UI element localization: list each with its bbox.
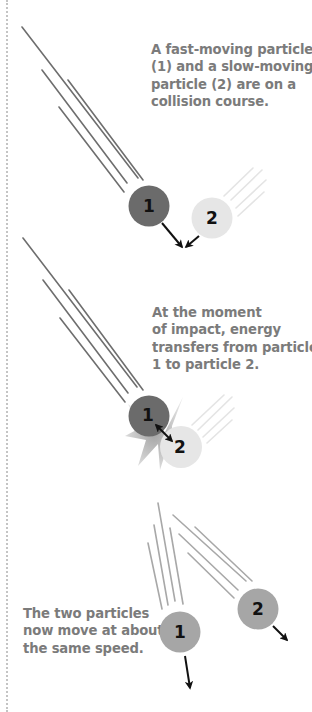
arrow-velocity-1-icon [185,656,190,688]
particle-2-after: 2 [238,589,279,630]
particle-label: 2 [252,599,264,619]
arrow-velocity-2-icon [186,236,199,247]
particle-label: 1 [142,405,154,425]
particle-label: 1 [143,196,155,216]
scene-after: 1 2 [148,503,287,688]
scene-impact: 1 2 [23,238,234,470]
particle-1-after: 1 [160,612,201,653]
trail-particle-2-icon [173,515,252,598]
particle-label: 2 [206,208,218,228]
collision-diagram: 1 2 1 2 [0,0,312,712]
particle-label: 1 [174,622,186,642]
trail-fast-particle-icon [23,238,143,402]
scene-approach: 1 2 [22,27,266,247]
arrow-velocity-1-icon [162,223,182,247]
trail-fast-particle-icon [22,27,143,192]
particle-label: 2 [174,437,186,457]
particle-1-fast: 1 [129,396,170,437]
particle-1-fast: 1 [129,186,170,227]
particle-2-slow: 2 [160,426,202,468]
particle-2-slow: 2 [192,198,233,239]
arrow-velocity-2-icon [273,626,287,640]
